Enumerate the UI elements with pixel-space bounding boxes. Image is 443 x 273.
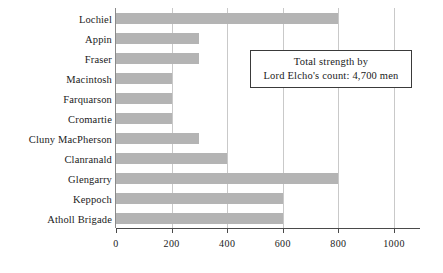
bar bbox=[116, 133, 199, 144]
category-label: Keppoch bbox=[0, 194, 112, 205]
category-axis: LochielAppinFraserMacintoshFarquarsonCro… bbox=[0, 8, 112, 228]
category-label: Fraser bbox=[0, 54, 112, 65]
gridline-800 bbox=[338, 8, 339, 228]
gridline-1000 bbox=[394, 8, 395, 228]
category-label: Macintosh bbox=[0, 74, 112, 85]
annotation-line-2: Lord Elcho's count: 4,700 men bbox=[263, 69, 398, 83]
bar bbox=[116, 193, 283, 204]
x-tick-mark bbox=[116, 228, 117, 233]
bar bbox=[116, 173, 338, 184]
x-tick-label: 800 bbox=[330, 238, 346, 249]
category-label: Appin bbox=[0, 34, 112, 45]
annotation-line-1: Total strength by bbox=[294, 55, 368, 69]
x-tick-label: 200 bbox=[163, 238, 179, 249]
x-tick-mark bbox=[338, 228, 339, 233]
category-label: Farquarson bbox=[0, 94, 112, 105]
category-label: Cromartie bbox=[0, 114, 112, 125]
bar bbox=[116, 33, 199, 44]
x-tick-label: 0 bbox=[113, 238, 118, 249]
x-tick-mark bbox=[172, 228, 173, 233]
horizontal-bar-chart: LochielAppinFraserMacintoshFarquarsonCro… bbox=[0, 0, 443, 273]
category-label: Glengarry bbox=[0, 174, 112, 185]
category-label: Atholl Brigade bbox=[0, 214, 112, 225]
bar bbox=[116, 93, 172, 104]
x-tick-label: 400 bbox=[219, 238, 235, 249]
plot-area bbox=[116, 8, 422, 228]
category-label: Clanranald bbox=[0, 154, 112, 165]
bar bbox=[116, 73, 172, 84]
x-tick-label: 600 bbox=[275, 238, 291, 249]
x-tick-label: 1000 bbox=[383, 238, 405, 249]
bar bbox=[116, 113, 172, 124]
total-strength-annotation: Total strength by Lord Elcho's count: 4,… bbox=[250, 50, 412, 88]
bar bbox=[116, 13, 338, 24]
bar bbox=[116, 213, 283, 224]
bar bbox=[116, 153, 227, 164]
x-tick-mark bbox=[283, 228, 284, 233]
bar bbox=[116, 53, 199, 64]
category-label: Cluny MacPherson bbox=[0, 134, 112, 145]
category-label: Lochiel bbox=[0, 14, 112, 25]
x-tick-mark bbox=[394, 228, 395, 233]
y-axis-line bbox=[115, 8, 116, 228]
x-tick-mark bbox=[227, 228, 228, 233]
x-axis-line bbox=[116, 228, 420, 229]
